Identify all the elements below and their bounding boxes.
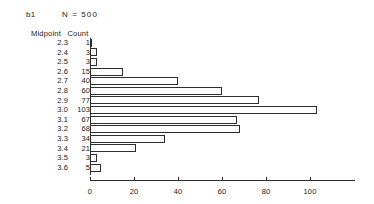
bar-rect [90, 48, 97, 56]
bar-rect [90, 116, 237, 124]
histogram-row: 2.977 [0, 96, 374, 106]
histogram-row: 2.615 [0, 67, 374, 77]
count-value: 67 [60, 115, 90, 125]
x-axis-tick [90, 177, 91, 181]
bar-rect [90, 87, 222, 95]
bar-rect [90, 164, 101, 172]
bar-rect [90, 125, 240, 133]
count-value: 21 [60, 144, 90, 154]
histogram-row: 3.0103 [0, 105, 374, 115]
histogram-bar [90, 106, 317, 114]
histogram-row: 3.53 [0, 153, 374, 163]
bar-rect [90, 135, 165, 143]
histogram-bar [90, 125, 240, 133]
count-value: 3 [60, 153, 90, 163]
histogram-bar [90, 116, 237, 124]
count-value: 3 [60, 57, 90, 67]
histogram-figure: b1 N = 500 Midpoint Count 2.312.432.532.… [0, 0, 374, 204]
x-axis-line [90, 180, 355, 181]
count-value: 103 [60, 105, 90, 115]
x-axis-tick [134, 177, 135, 181]
count-value: 77 [60, 96, 90, 106]
bar-rect [90, 96, 259, 104]
x-axis-tick-label: 100 [303, 187, 316, 196]
histogram-bar [90, 58, 97, 66]
histogram-row: 3.268 [0, 124, 374, 134]
x-axis-tick-label: 80 [262, 187, 271, 196]
bar-rect [90, 144, 136, 152]
histogram-row: 2.31 [0, 38, 374, 48]
histogram-bar [90, 87, 222, 95]
x-axis-tick-label: 60 [218, 187, 227, 196]
x-axis-tick-label: 0 [88, 187, 92, 196]
bar-rect [90, 39, 92, 47]
bar-rect [90, 68, 123, 76]
count-value: 34 [60, 134, 90, 144]
count-value: 60 [60, 86, 90, 96]
group-label: b1 [26, 10, 35, 19]
histogram-bar [90, 77, 178, 85]
count-value: 68 [60, 124, 90, 134]
bar-rect [90, 154, 97, 162]
histogram-bar [90, 48, 97, 56]
histogram-row: 3.334 [0, 134, 374, 144]
histogram-bar [90, 154, 97, 162]
histogram-row: 2.53 [0, 57, 374, 67]
column-header-count: Count [60, 29, 96, 38]
histogram-bar [90, 135, 165, 143]
histogram-row: 2.43 [0, 48, 374, 58]
histogram-bar [90, 96, 259, 104]
x-axis-tick [222, 177, 223, 181]
sample-size-label: N = 500 [62, 10, 98, 19]
x-axis-tick-label: 40 [174, 187, 183, 196]
count-value: 3 [60, 48, 90, 58]
histogram-bar [90, 39, 92, 47]
bar-rect [90, 106, 317, 114]
histogram-row: 3.167 [0, 115, 374, 125]
histogram-row: 2.860 [0, 86, 374, 96]
bar-rect [90, 77, 178, 85]
x-axis-tick-label: 20 [130, 187, 139, 196]
count-value: 5 [60, 163, 90, 173]
count-value: 15 [60, 67, 90, 77]
histogram-bar [90, 164, 101, 172]
histogram-row: 2.740 [0, 76, 374, 86]
count-value: 1 [60, 38, 90, 48]
x-axis-tick [178, 177, 179, 181]
histogram-row: 3.421 [0, 144, 374, 154]
x-axis-tick [310, 177, 311, 181]
histogram-bar [90, 68, 123, 76]
histogram-row: 3.65 [0, 163, 374, 173]
bar-rect [90, 58, 97, 66]
histogram-rows: 2.312.432.532.6152.7402.8602.9773.01033.… [0, 38, 374, 172]
histogram-bar [90, 144, 136, 152]
x-axis-tick [266, 177, 267, 181]
count-value: 40 [60, 76, 90, 86]
